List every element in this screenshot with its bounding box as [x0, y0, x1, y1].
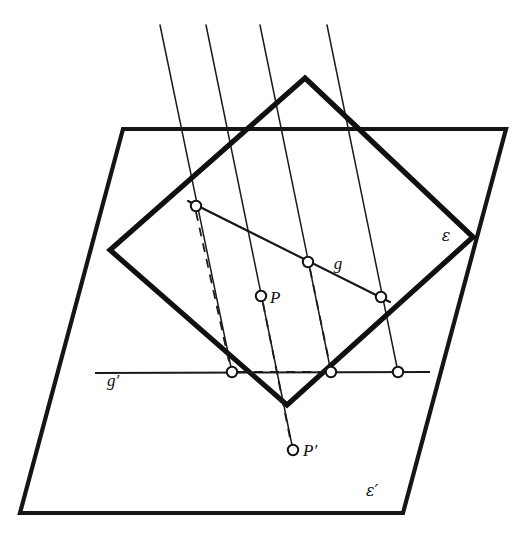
label-line-g: g	[334, 254, 343, 273]
node-g-mid	[303, 257, 313, 267]
epsilon-prime-plane	[20, 129, 506, 513]
node-point-p-prime	[288, 445, 298, 455]
node-point-p	[256, 291, 266, 301]
line-g	[188, 201, 390, 302]
node-g-end	[376, 292, 386, 302]
node-g-start	[191, 201, 201, 211]
label-epsilon-prime: ε′	[366, 481, 379, 500]
label-point-p-prime: P′	[302, 441, 317, 460]
projection-ray-4	[327, 25, 398, 372]
node-g-prime-2	[326, 367, 336, 377]
node-g-prime-3	[393, 367, 403, 377]
projection-diagram: ε ε′ g g′ P P′	[0, 0, 527, 536]
label-point-p: P	[269, 288, 280, 307]
label-epsilon: ε	[442, 226, 451, 245]
label-line-g-prime: g′	[107, 371, 120, 390]
geometry-figure: ε ε′ g g′ P P′	[0, 0, 527, 536]
node-g-prime-1	[227, 367, 237, 377]
